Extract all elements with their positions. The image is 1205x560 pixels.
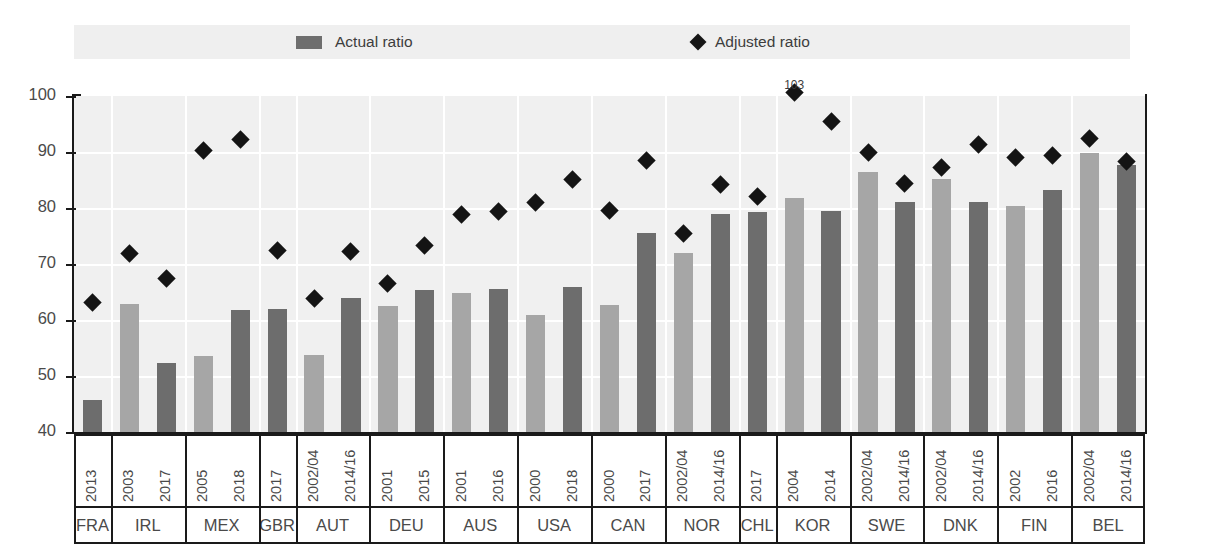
bar xyxy=(858,172,877,432)
group-gridline xyxy=(1071,96,1073,432)
country-label-bel: BEL xyxy=(1071,506,1145,544)
y-axis-tick xyxy=(66,320,76,322)
data-point-marker xyxy=(416,236,434,254)
group-separator xyxy=(739,434,741,544)
bar xyxy=(748,212,767,432)
y-axis-tick xyxy=(66,208,76,210)
year-label: 2002/04 xyxy=(859,436,875,502)
y-axis-tick xyxy=(66,264,76,266)
data-point-marker xyxy=(379,274,397,292)
country-label-can: CAN xyxy=(591,506,665,544)
group-separator xyxy=(923,434,925,544)
year-label: 2018 xyxy=(564,436,580,502)
country-label-kor: KOR xyxy=(776,506,850,544)
year-label: 2014/16 xyxy=(711,436,727,502)
bar xyxy=(969,202,988,432)
bar xyxy=(821,211,840,432)
data-point-marker xyxy=(490,203,508,221)
year-label: 2018 xyxy=(231,436,247,502)
country-label-mex: MEX xyxy=(185,506,259,544)
year-label: 2002/04 xyxy=(305,436,321,502)
data-point-label: 103 xyxy=(774,78,814,92)
year-label: 2002/04 xyxy=(674,436,690,502)
bar xyxy=(600,305,619,432)
group-gridline xyxy=(259,96,261,432)
bar xyxy=(341,298,360,432)
bar xyxy=(1006,206,1025,432)
year-label: 2017 xyxy=(157,436,173,502)
year-label: 2016 xyxy=(1044,436,1060,502)
year-label: 2003 xyxy=(120,436,136,502)
y-axis-tick-label: 40 xyxy=(0,421,56,440)
bar xyxy=(452,293,471,432)
group-gridline xyxy=(443,96,445,432)
year-label: 2014/16 xyxy=(342,436,358,502)
data-point-marker xyxy=(268,241,286,259)
group-gridline xyxy=(591,96,593,432)
group-separator xyxy=(665,434,667,544)
legend-item-actual-ratio: Actual ratio xyxy=(296,25,413,59)
chart-legend: Actual ratio Adjusted ratio xyxy=(74,25,1130,59)
bar xyxy=(268,309,287,432)
group-separator xyxy=(443,434,445,544)
group-separator xyxy=(369,434,371,544)
group-separator xyxy=(296,434,298,544)
country-label-row: FRAIRLMEXGBRAUTDEUAUSUSACANNORCHLKORSWED… xyxy=(74,506,1145,544)
data-point-marker xyxy=(157,269,175,287)
year-label: 2015 xyxy=(416,436,432,502)
country-label-gbr: GBR xyxy=(259,506,296,544)
country-label-usa: USA xyxy=(517,506,591,544)
data-point-marker xyxy=(933,158,951,176)
y-axis-tick-label: 90 xyxy=(0,141,56,160)
y-axis-tick xyxy=(66,152,76,154)
year-label: 2017 xyxy=(748,436,764,502)
country-label-dnk: DNK xyxy=(923,506,997,544)
group-gridline xyxy=(923,96,925,432)
group-gridline xyxy=(369,96,371,432)
y-axis-tick-label: 100 xyxy=(0,85,56,104)
plot-area: 103 xyxy=(74,96,1145,432)
bar xyxy=(1080,153,1099,432)
group-separator xyxy=(111,434,113,544)
year-label: 2005 xyxy=(194,436,210,502)
year-label: 2001 xyxy=(453,436,469,502)
group-gridline xyxy=(517,96,519,432)
y-axis-tick xyxy=(66,96,76,98)
year-label: 2014/16 xyxy=(1118,436,1134,502)
group-separator xyxy=(259,434,261,544)
group-separator xyxy=(185,434,187,544)
group-gridline xyxy=(776,96,778,432)
bar xyxy=(563,287,582,432)
group-separator xyxy=(997,434,999,544)
group-gridline xyxy=(997,96,999,432)
country-label-aut: AUT xyxy=(296,506,370,544)
chart-container: Actual ratio Adjusted ratio 103 10090807… xyxy=(0,0,1205,560)
data-point-marker xyxy=(563,170,581,188)
bar xyxy=(637,233,656,432)
y-axis-tick-label: 70 xyxy=(0,253,56,272)
group-separator xyxy=(517,434,519,544)
year-label: 2014 xyxy=(822,436,838,502)
year-label: 2002/04 xyxy=(1081,436,1097,502)
group-gridline xyxy=(111,96,113,432)
bar xyxy=(304,355,323,432)
data-point-marker xyxy=(711,175,729,193)
data-point-marker xyxy=(896,175,914,193)
bar xyxy=(785,198,804,432)
data-point-marker xyxy=(83,293,101,311)
data-point-marker xyxy=(120,245,138,263)
year-label: 2017 xyxy=(268,436,284,502)
data-point-marker xyxy=(1080,129,1098,147)
data-point-marker xyxy=(1043,147,1061,165)
bar xyxy=(231,310,250,432)
bar xyxy=(194,356,213,432)
year-label: 2004 xyxy=(785,436,801,502)
group-separator xyxy=(1071,434,1073,544)
bar xyxy=(711,214,730,432)
bar xyxy=(157,363,176,432)
bar xyxy=(1117,165,1136,432)
data-point-marker xyxy=(859,143,877,161)
data-point-marker xyxy=(822,112,840,130)
country-label-aus: AUS xyxy=(443,506,517,544)
group-gridline xyxy=(850,96,852,432)
